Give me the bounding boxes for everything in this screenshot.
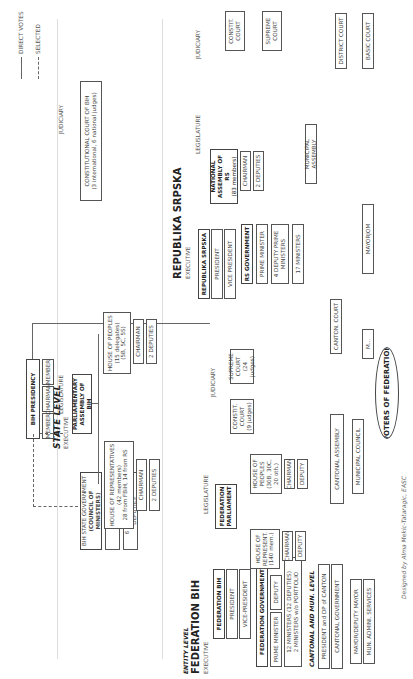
constitutional-court-bih: CONSTITUTIONAL COURT OF BIH (3 internati…: [80, 81, 102, 201]
house-of-peoples-box: HOUSE OF PEOPLES (15 delegates) (5B, 5C,…: [103, 312, 131, 374]
rs-executive-label: EXECUTIVE: [185, 247, 191, 279]
rs-deputy-pms: 4 DEPUTY PRIME MINISTERS: [271, 224, 289, 284]
rs-legislature-label: LEGISLATURE: [195, 115, 201, 154]
fbih-vice-president: VICE-PRESIDENT: [239, 569, 251, 639]
fbih-hop-chairman: CHAIRMAN: [284, 459, 295, 489]
presidency-box: BIH PRESIDENCY: [26, 359, 40, 439]
federation-parliament: FEDERATION PARLIAMENT: [215, 484, 237, 529]
rs-assembly-title: NATIONAL ASSEMBLY OF RS: [210, 155, 230, 198]
council-title: BIH STATE GOVERNMENT: [81, 476, 87, 546]
fbih-hor-chairman: CHAIRMAN: [282, 531, 293, 561]
house-of-representatives-box: HOUSE OF REPRESENTATIVES (42 members) 28…: [104, 441, 134, 529]
rs-municipal-assembly: MUNICIPAL ASSEMBLY: [305, 124, 317, 184]
fbih-constit-court: CONSTIT. COURT (9 judges): [230, 399, 254, 434]
canton-court: CANTON. COURT: [330, 299, 342, 354]
rs-district-court: DISTRICT COURT: [335, 13, 347, 69]
parliamentary-assembly-box: PARLIAMENTARY ASSEMBLY OF BIH: [72, 374, 92, 434]
mayor: MAYOR/DEPUTY MAYOR: [350, 579, 362, 664]
credit-text: Designed by Alma Mekic-Tataragic, EASC: [400, 476, 407, 599]
rs-mayor: MAYORJOM: [362, 204, 374, 274]
cantonal-assembly: CANTONAL ASSEMBLY: [330, 414, 344, 504]
presidency-chairman: CHAIRMAN: [42, 386, 54, 412]
diagram-canvas: DIRECT VOTES SELECTED STATE LEVEL EXECUT…: [0, 0, 413, 679]
rs-judiciary-label: JUDICIARY: [195, 30, 201, 59]
rs-ministers: 17 MINISTERS: [292, 224, 304, 284]
rs-national-assembly: NATIONAL ASSEMBLY OF RS(83 members): [210, 149, 238, 204]
voters-of-federation: VOTERS OF FEDERATION: [375, 347, 399, 439]
municipal-council: MUNICIPAL COUNCIL: [352, 419, 364, 494]
rs-prime-minister: PRIME MINISTER: [256, 224, 268, 284]
connector: [40, 433, 63, 434]
fbih-hop-deputy: DEPUTY: [297, 459, 308, 489]
fbih-house-of-reps: HOUSE OF REPRESENT. (140 mem.): [250, 529, 280, 569]
rs-title: REPUBLIKA SRPSKA: [172, 167, 183, 279]
fbih-ministers: 12 MINISTERS (12 DEPUTIES) 2 MINISTERS w…: [284, 557, 302, 667]
entity-level-label: ENTITY LEVEL: [182, 628, 189, 674]
legislature-label: LEGISLATURE: [58, 375, 64, 414]
rs-assembly-chairman: CHAIRMAN: [240, 151, 251, 191]
fbih-hor-deputy: DEPUTY: [295, 531, 306, 561]
rs-government-box: RS GOVERNMENT: [241, 224, 253, 284]
cantonal-level-label: CANTONAL AND MUN. LEVEL: [308, 571, 315, 667]
legend-solid-line: [21, 57, 22, 79]
rs-basic-court: BASIC COURT: [362, 13, 374, 69]
state-level-subtitle: EXECUTIVE: [63, 417, 69, 449]
federation-title: FEDERATION BIH: [190, 580, 201, 674]
rs-assembly-members: (83 members): [231, 157, 237, 197]
fbih-prime-minister: PRIME MINISTER: [270, 612, 282, 667]
federation-legislature-label: LEGISLATURE: [203, 475, 209, 514]
fbih-house-of-peoples: HOUSE OF PEOPLES (30B, 30C, 20 oth.): [250, 454, 282, 494]
connector: [98, 334, 99, 484]
legend-selected: SELECTED: [35, 24, 41, 54]
canton-president: PRESIDENT and DP of CANTON: [318, 564, 330, 669]
judiciary-label: JUDICIARY: [58, 105, 64, 134]
rs-president-box: REPUBLIKA SRPSKA: [198, 229, 210, 299]
hop-deputies-box: 2 DEPUTIES: [146, 319, 157, 364]
hop-chairman-box: CHAIRMAN: [133, 319, 144, 364]
separator: [162, 19, 163, 659]
presidency-member-1: MEMBER: [42, 413, 54, 439]
municipal-court: M...: [362, 329, 374, 359]
rs-vice-president: VICE PRESIDENT: [224, 229, 236, 299]
fbih-box: FEDERATION BIH: [213, 569, 225, 639]
rs-constit-court: CONSTIT. COURT: [225, 11, 245, 51]
fbih-deputy: DEPUTY: [270, 575, 282, 610]
legend-direct-votes: DIRECT VOTES: [18, 11, 24, 54]
rs-supreme-court: SUPREME COURT: [262, 11, 282, 51]
fbih-supreme-court: SUPREME COURT (24 judges): [230, 349, 254, 384]
hor-deputies-box: 2 DEPUTIES: [149, 459, 160, 511]
hor-chairman-box: CHAIRMAN: [136, 459, 147, 511]
mun-admin-services: MUN. ADMINI. SERVICES: [363, 579, 375, 664]
cantonal-government: CANTONAL GOVERNMENT: [331, 564, 343, 669]
fbih-president: PRESIDENT: [226, 569, 238, 639]
presidency-member-2: MEMBER: [42, 359, 54, 385]
rs-president: PRESIDENT: [211, 229, 223, 299]
connector: [33, 434, 34, 507]
connector: [33, 506, 78, 507]
legend-dashed-line: [38, 57, 39, 79]
council-subtitle: (COUNCIL OF MINISTERS): [88, 491, 101, 532]
federation-executive-label: EXECUTIVE: [203, 642, 209, 674]
vote-line: [32, 323, 33, 359]
federation-judiciary-label: JUDICIARY: [210, 368, 216, 397]
federation-government-box: FEDERATION GOVERNMENT: [256, 557, 268, 667]
rs-assembly-deputies: 2 DEPUTIES: [253, 151, 264, 191]
